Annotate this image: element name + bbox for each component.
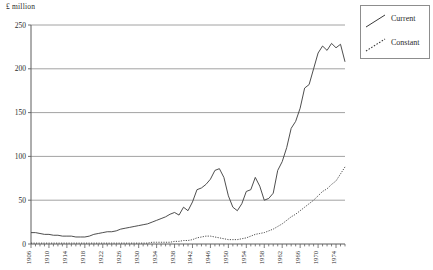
gridlines — [31, 25, 345, 200]
svg-text:150: 150 — [15, 108, 27, 117]
svg-text:1942: 1942 — [186, 251, 193, 264]
svg-text:1906: 1906 — [25, 250, 32, 264]
svg-text:100: 100 — [15, 152, 27, 161]
svg-text:0: 0 — [22, 240, 26, 249]
svg-text:1970: 1970 — [312, 250, 319, 264]
y-axis-ticks: 050100150200250 — [15, 21, 31, 249]
svg-text:250: 250 — [15, 21, 27, 30]
svg-text:1934: 1934 — [151, 250, 158, 264]
svg-text:1974: 1974 — [330, 250, 337, 264]
x-axis-ticks — [31, 244, 345, 248]
chart-root: £ million 050100150200250 19061910191419… — [0, 0, 433, 270]
svg-text:200: 200 — [15, 64, 27, 73]
chart-legend: Current Constant — [360, 5, 430, 59]
svg-text:1926: 1926 — [115, 250, 122, 264]
svg-text:1910: 1910 — [43, 250, 50, 264]
svg-text:1922: 1922 — [97, 251, 104, 264]
svg-text:1946: 1946 — [204, 250, 211, 264]
svg-text:1938: 1938 — [169, 250, 176, 264]
svg-text:1966: 1966 — [294, 250, 301, 264]
svg-text:1958: 1958 — [258, 250, 265, 264]
svg-text:1930: 1930 — [133, 250, 140, 264]
legend-item-constant: Constant — [361, 32, 429, 58]
svg-text:1918: 1918 — [79, 250, 86, 264]
legend-item-current: Current — [361, 8, 429, 34]
series-line-current — [31, 43, 345, 237]
legend-label-current: Current — [391, 14, 415, 23]
svg-text:50: 50 — [19, 196, 27, 205]
svg-text:1950: 1950 — [222, 250, 229, 264]
x-axis-labels: 1906191019141918192219261930193419381942… — [25, 250, 337, 264]
chart-svg: 050100150200250 190619101914191819221926… — [0, 0, 352, 270]
series-line-constant — [31, 167, 345, 243]
legend-label-constant: Constant — [391, 38, 419, 47]
plot-area: 050100150200250 190619101914191819221926… — [0, 0, 352, 270]
svg-text:1914: 1914 — [61, 250, 68, 264]
legend-swatch-dotted-icon — [365, 36, 387, 54]
legend-swatch-solid-icon — [365, 12, 387, 30]
svg-text:1962: 1962 — [276, 251, 283, 264]
svg-text:1954: 1954 — [240, 250, 247, 264]
